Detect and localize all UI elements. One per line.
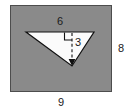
geometry-figure: 6 3 8 9 — [0, 0, 130, 111]
label-rectangle-width: 9 — [58, 96, 64, 108]
label-rectangle-height: 8 — [118, 42, 124, 54]
figure-canvas: 6 3 8 9 — [0, 0, 130, 111]
label-triangle-base: 6 — [57, 15, 63, 27]
label-triangle-height: 3 — [75, 36, 81, 48]
